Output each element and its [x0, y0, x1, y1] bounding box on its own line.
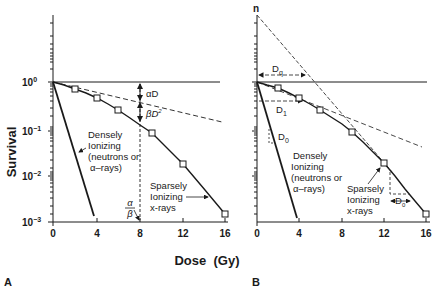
x-tick-label: 0 [50, 228, 56, 239]
x-tick-label: 12 [378, 228, 390, 239]
densely-ionizing-line-b [257, 82, 297, 218]
panel-b: 0 4 8 12 16 n Dq D1 D0 Densely Ionizing … [252, 3, 432, 288]
densely-label: α–rays) [293, 183, 325, 194]
d1-label: D1 [276, 104, 287, 117]
sparsely-label: Sparsely [150, 180, 187, 191]
sparsely-label: x-rays [150, 202, 176, 213]
panel-a: 100 10−1 10−2 10−3 0 4 8 12 16 Survival … [4, 15, 231, 288]
x-tick-label: 0 [254, 228, 260, 239]
x-tick-label: 4 [296, 228, 302, 239]
x-tick-label: 4 [94, 228, 100, 239]
beta-d2-label: βD2 [145, 108, 162, 119]
densely-label: Densely [88, 129, 123, 140]
densely-label: Ionizing [291, 161, 324, 172]
d0-final-label: D0 [395, 195, 406, 208]
sparsely-label: Ionizing [150, 191, 183, 202]
y-tick-label: 100 [22, 76, 37, 88]
y-tick-label: 10−3 [22, 216, 41, 228]
x-tick-label: 8 [339, 228, 345, 239]
densely-label: α–rays) [90, 162, 122, 173]
panel-b-label: B [252, 276, 260, 288]
densely-label: (neutrons or [291, 172, 342, 183]
densely-label: Densely [293, 150, 328, 161]
d0-label: D0 [278, 131, 289, 144]
x-tick-label: 12 [177, 228, 189, 239]
sparsely-label: Sparsely [347, 183, 384, 194]
panel-a-label: A [4, 276, 12, 288]
x-tick-label: 16 [420, 228, 432, 239]
sparsely-label: Ionizing [347, 194, 380, 205]
survival-curves-figure: 100 10−1 10−2 10−3 0 4 8 12 16 Survival … [0, 0, 438, 291]
y-tick-label: 10−1 [22, 125, 41, 137]
y-axis-title: Survival [4, 127, 19, 178]
x-tick-label: 8 [137, 228, 143, 239]
y-tick-label: 10−2 [22, 170, 41, 182]
x-axis-title: Dose (Gy) [174, 253, 239, 268]
alpha-d-label: αD [146, 88, 158, 99]
densely-label: Ionizing [88, 140, 121, 151]
alpha-label: α [127, 197, 133, 208]
sparsely-ionizing-curve-a [53, 82, 225, 214]
x-tick-label: 16 [219, 228, 231, 239]
beta-label: β [126, 208, 133, 219]
n-label: n [253, 3, 259, 14]
densely-label: (neutrons or [88, 151, 139, 162]
sparsely-label: x-rays [347, 205, 373, 216]
